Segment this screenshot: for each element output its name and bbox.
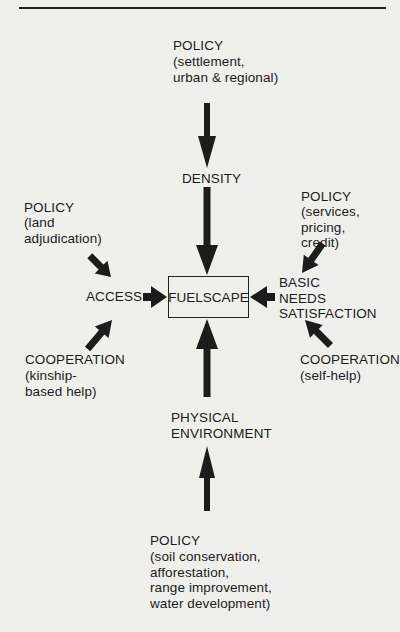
arrow-diagonal-icon [299,314,337,352]
arrow-diagonal-icon [81,314,119,355]
arrow-down-icon [198,103,216,168]
arrow-diagonal-icon [83,249,117,283]
arrow-diagonal-icon [295,238,330,278]
arrow-up-icon [199,446,215,511]
arrow-left-icon [250,286,275,308]
arrow-down-icon [196,187,218,275]
arrow-up-icon [196,319,218,397]
arrow-right-icon [143,286,167,308]
